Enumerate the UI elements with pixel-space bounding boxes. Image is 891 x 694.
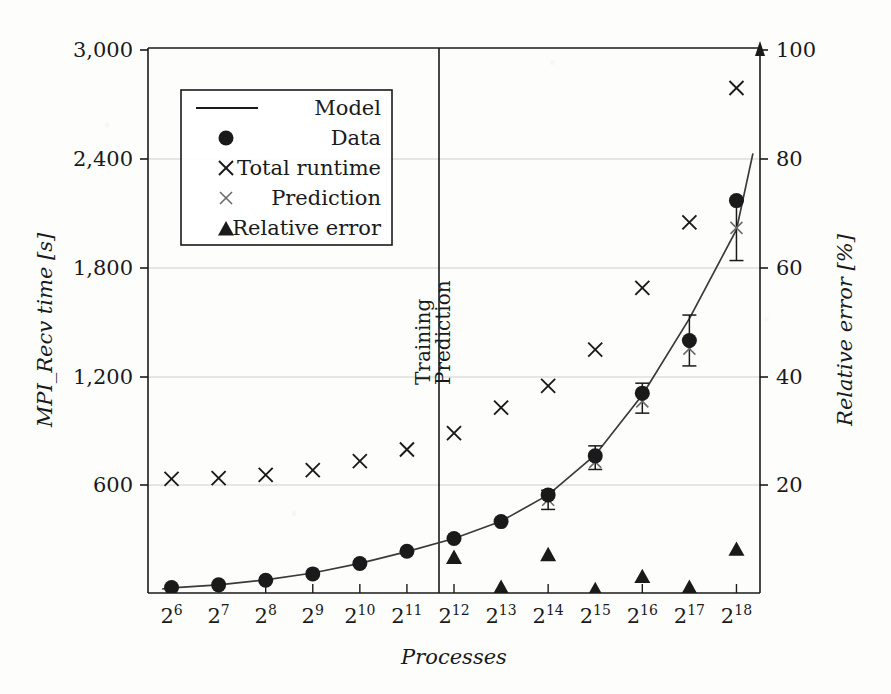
series-relative-error-markers <box>446 541 744 596</box>
legend-marker-data-circle <box>219 131 234 146</box>
data-point-marker <box>494 514 509 529</box>
relative-error-marker <box>728 541 744 555</box>
legend-label-model: Model <box>314 96 381 120</box>
right-tick-label-40: 40 <box>776 365 803 389</box>
series-data-markers <box>164 193 744 595</box>
left-tick-label-1200: 1,200 <box>73 365 133 389</box>
left-tick-label-1800: 1,800 <box>73 256 133 280</box>
data-point-marker <box>447 531 462 546</box>
x-tick-label-2^6: 26 <box>160 602 182 628</box>
x-tick-label-2^11: 211 <box>391 602 422 628</box>
relative-error-marker <box>540 547 556 561</box>
data-point-marker <box>682 333 697 348</box>
right-axis-ticks <box>760 50 768 485</box>
series-data-errorbars <box>541 201 743 510</box>
right-tick-label-100: 100 <box>776 38 816 62</box>
x-tick-label-2^18: 218 <box>721 602 752 628</box>
y-axis-title-left: MPI_Recv time [s] <box>33 232 57 428</box>
legend-label-prediction: Prediction <box>271 186 381 210</box>
data-point-marker <box>588 448 603 463</box>
x-tick-label-2^9: 29 <box>302 602 324 628</box>
data-point-marker <box>541 487 556 502</box>
x-tick-label-2^14: 214 <box>533 602 564 628</box>
x-tick-label-2^13: 213 <box>485 602 516 628</box>
left-tick-label-2400: 2,400 <box>73 147 133 171</box>
relative-error-marker <box>493 580 509 594</box>
relative-error-marker <box>634 569 650 583</box>
chart-canvas: 3,000 2,400 1,800 1,200 600 100 80 60 40… <box>0 0 891 694</box>
data-point-marker <box>305 566 320 581</box>
y-axis-title-right: Relative error [%] <box>833 233 857 427</box>
left-tick-label-600: 600 <box>93 473 133 497</box>
x-tick-label-2^16: 216 <box>627 602 658 628</box>
data-point-marker <box>352 556 367 571</box>
data-point-marker <box>635 386 650 401</box>
right-tick-label-80: 80 <box>776 147 803 171</box>
legend: Model Data Total runtime Prediction Rela… <box>181 90 392 245</box>
legend-label-total-runtime: Total runtime <box>237 156 381 180</box>
x-tick-label-2^15: 215 <box>580 602 611 628</box>
series-prediction-markers <box>542 222 742 506</box>
x-tick-label-2^12: 212 <box>438 602 469 628</box>
x-axis-title: Processes <box>400 645 507 669</box>
figure-page: 3,000 2,400 1,800 1,200 600 100 80 60 40… <box>0 0 891 694</box>
data-point-marker <box>399 544 414 559</box>
data-point-marker <box>164 580 179 595</box>
x-tick-label-2^7: 27 <box>207 602 229 628</box>
region-label-prediction: Prediction <box>431 280 455 385</box>
legend-label-data: Data <box>331 126 381 150</box>
left-axis-ticks <box>140 50 148 485</box>
x-axis-ticks <box>172 584 737 593</box>
data-point-marker <box>729 193 744 208</box>
data-point-marker <box>211 577 226 592</box>
x-axis-tick-labels: 26272829210211212213214215216217218 <box>160 602 752 628</box>
left-tick-label-3000: 3,000 <box>73 38 133 62</box>
legend-label-relative-error: Relative error <box>232 216 382 240</box>
data-point-marker <box>258 573 273 588</box>
x-tick-label-2^10: 210 <box>344 602 375 628</box>
x-tick-label-2^17: 217 <box>674 602 705 628</box>
right-tick-label-20: 20 <box>776 473 803 497</box>
relative-error-marker <box>446 550 462 564</box>
x-tick-label-2^8: 28 <box>255 602 277 628</box>
right-tick-label-60: 60 <box>776 256 803 280</box>
relative-error-marker <box>681 580 697 594</box>
relative-error-marker <box>587 582 603 596</box>
